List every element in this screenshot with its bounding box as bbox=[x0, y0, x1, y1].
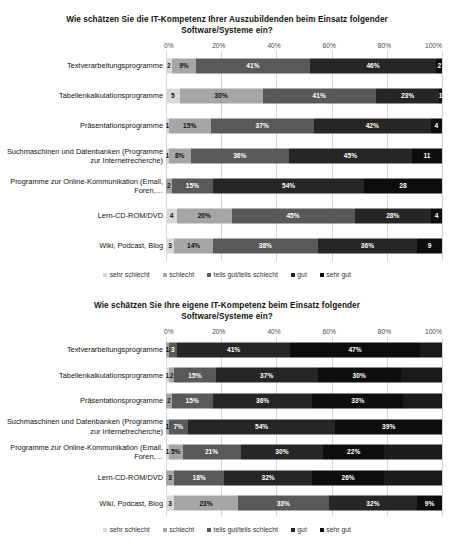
bar-segment: 8% bbox=[169, 149, 191, 164]
bar-wrap: 01341%47% bbox=[166, 337, 454, 363]
segment-value: 2 bbox=[167, 398, 171, 405]
legend-swatch bbox=[320, 273, 324, 277]
x-axis-tick: 60% bbox=[323, 328, 336, 335]
chart-page: Wie schätzen Sie die IT-Kompetenz Ihrer … bbox=[0, 0, 454, 541]
bar-wrap: 29%41%46%2 bbox=[166, 51, 454, 81]
bar-segment: 54% bbox=[188, 419, 336, 434]
bar-segment: 23% bbox=[376, 89, 439, 104]
legend-swatch bbox=[103, 528, 107, 532]
bar-wrap: 0215%36%33% bbox=[166, 388, 454, 414]
bar-segment bbox=[384, 470, 442, 485]
x-axis: 0%20%40%60%80%100% bbox=[0, 325, 454, 337]
bar-segment bbox=[420, 342, 442, 357]
segment-value: 2 bbox=[167, 63, 171, 70]
stacked-bar: 323%33%32%9% bbox=[166, 496, 442, 511]
bar-segment: 5 bbox=[166, 89, 180, 104]
segment-value: 3 bbox=[171, 347, 175, 354]
segment-value: 11 bbox=[423, 153, 430, 160]
segment-value: 15% bbox=[186, 398, 199, 405]
chart-row: Textverarbeitungsprogramme01341%47% bbox=[0, 337, 454, 363]
x-axis-tick: 0% bbox=[164, 328, 174, 335]
bar-segment: 28 bbox=[364, 179, 442, 194]
chart-row: Tabellenkalkulationsprogramme1215%37%30% bbox=[0, 363, 454, 389]
segment-value: 45% bbox=[344, 153, 357, 160]
chart-row: Textverarbeitungsprogramme29%41%46%2 bbox=[0, 51, 454, 81]
category-label: Textverarbeitungsprogramme bbox=[0, 61, 166, 70]
segment-value: 33% bbox=[277, 500, 290, 507]
bar-segment: 42% bbox=[314, 119, 431, 134]
segment-value: 32% bbox=[261, 474, 274, 481]
legend-swatch bbox=[320, 528, 324, 532]
segment-value: 45% bbox=[286, 213, 299, 220]
legend-item: sehr gut bbox=[320, 271, 351, 278]
legend-label: sehr schlecht bbox=[110, 271, 150, 278]
category-label: Wiki, Podcast, Blog bbox=[0, 499, 166, 508]
category-label: Programme zur Online-Kommunikation (Emai… bbox=[0, 443, 166, 462]
segment-value: 20% bbox=[198, 213, 211, 220]
segment-value: 3 bbox=[168, 474, 172, 481]
segment-value: 9% bbox=[425, 500, 435, 507]
x-axis-tick: 40% bbox=[267, 42, 280, 49]
x-axis: 0%20%40%60%80%100% bbox=[0, 39, 454, 51]
segment-value: 41% bbox=[313, 93, 326, 100]
segment-value: 41% bbox=[246, 63, 259, 70]
segment-value: 39% bbox=[382, 423, 395, 430]
category-label: Textverarbeitungsprogramme bbox=[0, 345, 166, 354]
segment-value: 36% bbox=[361, 243, 374, 250]
legend-label: sehr schlecht bbox=[110, 526, 150, 533]
bar-wrap: 017%54%39% bbox=[166, 414, 454, 440]
segment-value: 7% bbox=[174, 423, 184, 430]
segment-value: 30% bbox=[275, 449, 288, 456]
bar-wrap: 15%21%30%22% bbox=[166, 439, 454, 465]
legend-item: schlecht bbox=[163, 526, 194, 533]
plot-area: Textverarbeitungsprogramme29%41%46%2Tabe… bbox=[0, 51, 454, 261]
chart-row: Suchmaschinen und Datenbanken (Programme… bbox=[0, 141, 454, 171]
segment-value: 42% bbox=[366, 123, 379, 130]
segment-value: 4 bbox=[435, 123, 439, 130]
segment-value: 54% bbox=[282, 183, 295, 190]
segment-value: 37% bbox=[260, 372, 273, 379]
segment-value: 4 bbox=[170, 213, 174, 220]
legend-swatch bbox=[291, 528, 295, 532]
legend-swatch bbox=[207, 273, 211, 277]
legend-item: gut bbox=[291, 271, 307, 278]
bar-wrap: 323%33%32%9% bbox=[166, 491, 454, 517]
bar-segment: 39% bbox=[335, 419, 442, 434]
bar-segment: 20% bbox=[177, 209, 232, 224]
x-axis-tick: 100% bbox=[425, 328, 442, 335]
bar-segment: 11 bbox=[412, 149, 442, 164]
bar-segment: 41% bbox=[196, 59, 309, 74]
bar-segment: 26% bbox=[312, 470, 384, 485]
segment-value: 1 bbox=[439, 93, 442, 100]
bar-segment: 36% bbox=[213, 393, 312, 408]
legend-item: sehr schlecht bbox=[103, 271, 150, 278]
segment-value: 33% bbox=[351, 398, 364, 405]
bar-segment: 37% bbox=[216, 368, 318, 383]
legend-swatch bbox=[207, 528, 211, 532]
segment-value: 8% bbox=[175, 153, 185, 160]
segment-value: 54% bbox=[255, 423, 268, 430]
category-label: Suchmaschinen und Datenbanken (Programme… bbox=[0, 417, 166, 436]
segment-value: 2 bbox=[167, 183, 171, 190]
chart-title: Wie schätzen Sie Ihre eigene IT-Kompeten… bbox=[0, 300, 454, 322]
x-axis-tick: 80% bbox=[378, 42, 391, 49]
legend-label: teils gut/teils schlecht bbox=[214, 526, 278, 533]
segment-value: 15% bbox=[186, 183, 199, 190]
bar-segment: 9% bbox=[417, 496, 442, 511]
stacked-bar: 0215%54%28 bbox=[166, 179, 442, 194]
bar-segment: 18% bbox=[174, 470, 224, 485]
bar-segment: 4 bbox=[166, 209, 177, 224]
segment-value: 2 bbox=[170, 372, 174, 379]
chart-2: Wie schätzen Sie Ihre eigene IT-Kompeten… bbox=[0, 300, 454, 533]
chart-row: Präsentationsprogramme0215%36%33% bbox=[0, 388, 454, 414]
bar-segment: 3 bbox=[166, 239, 174, 254]
chart-row: Suchmaschinen und Datenbanken (Programme… bbox=[0, 414, 454, 440]
legend-item: teils gut/teils schlecht bbox=[207, 271, 278, 278]
legend-item: schlecht bbox=[163, 271, 194, 278]
bar-segment bbox=[401, 368, 442, 383]
chart-row: Programme zur Online-Kommunikation (Emai… bbox=[0, 171, 454, 201]
bar-segment: 47% bbox=[290, 342, 420, 357]
x-axis-tick: 100% bbox=[425, 42, 442, 49]
bar-segment: 30% bbox=[241, 445, 324, 460]
x-axis-tick: 40% bbox=[267, 328, 280, 335]
